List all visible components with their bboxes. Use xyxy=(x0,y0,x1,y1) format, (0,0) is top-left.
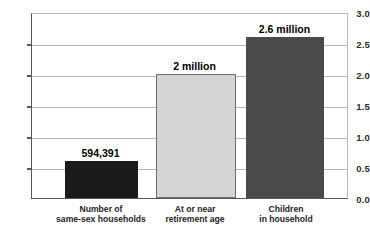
category-label-line2: retirement age xyxy=(165,214,224,224)
bar-same-sex-households xyxy=(65,161,138,198)
category-label-line1: Children xyxy=(269,204,304,214)
category-label-children-in-household: Children in household xyxy=(221,204,351,225)
plot-area xyxy=(31,13,348,199)
category-label-line2: in household xyxy=(259,214,312,224)
category-label-line1: At or near xyxy=(175,204,216,214)
bar-retirement-age xyxy=(156,74,236,198)
category-label-line1: Number of xyxy=(80,204,123,214)
bar-children-in-household xyxy=(246,37,324,198)
bar-chart: 3.0 2.5 2.0 1.5 1.0 0.5 0.0 594,391 2 mi… xyxy=(0,0,370,235)
bar-value-label-1: 594,391 xyxy=(44,148,157,159)
bar-value-label-2: 2 million xyxy=(138,61,251,72)
bar-value-label-3: 2.6 million xyxy=(228,24,341,35)
